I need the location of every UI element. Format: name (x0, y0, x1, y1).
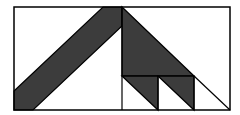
small-triangle-1 (122, 76, 158, 110)
geometric-diagram (0, 0, 240, 115)
filled-shapes (14, 7, 194, 110)
left-diagonal-band (14, 7, 122, 110)
small-triangle-2 (158, 76, 194, 110)
large-right-triangle (122, 7, 194, 76)
outer-diagonal (194, 76, 230, 110)
